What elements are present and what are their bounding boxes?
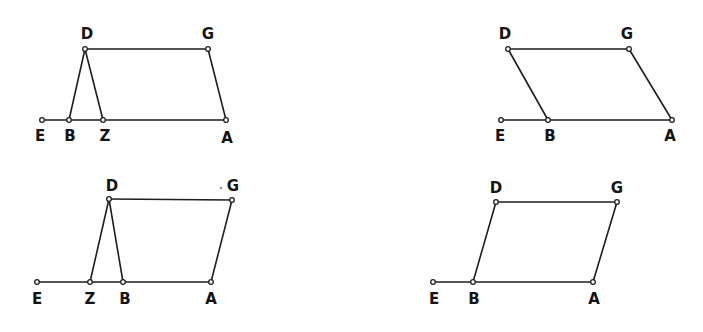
segment-DB xyxy=(508,49,548,120)
point-B xyxy=(67,118,72,123)
point-label-A: A xyxy=(588,290,600,308)
point-E xyxy=(499,118,504,123)
segment-GA xyxy=(211,200,232,282)
point-label-D: D xyxy=(106,177,118,195)
figure-bottom-right: EBADG xyxy=(429,179,623,308)
point-label-G: G xyxy=(611,179,623,197)
point-label-B: B xyxy=(64,127,75,145)
point-A xyxy=(670,118,675,123)
point-D xyxy=(506,47,511,52)
point-G xyxy=(615,200,620,205)
segment-DZ xyxy=(85,49,103,120)
segment-GA xyxy=(208,49,226,120)
point-label-D: D xyxy=(499,25,511,43)
point-D xyxy=(107,197,112,202)
point-E xyxy=(40,118,45,123)
point-label-E: E xyxy=(429,290,439,308)
geometry-figure-panel: EBZADGEBADGEZBADGEBADG xyxy=(0,0,703,332)
point-label-B: B xyxy=(544,127,555,145)
point-label-B: B xyxy=(119,290,130,308)
point-Z xyxy=(101,118,106,123)
segment-DZ xyxy=(90,199,109,282)
point-label-A: A xyxy=(205,290,217,308)
point-label-Z: Z xyxy=(85,290,96,308)
point-A xyxy=(591,280,596,285)
point-label-E: E xyxy=(32,290,42,308)
point-label-E: E xyxy=(495,127,505,145)
point-A xyxy=(224,118,229,123)
segment-DG xyxy=(109,199,232,200)
point-label-A: A xyxy=(664,127,676,145)
point-E xyxy=(35,280,40,285)
point-G xyxy=(230,198,235,203)
point-Z xyxy=(88,280,93,285)
point-D xyxy=(83,47,88,52)
segment-GA xyxy=(629,49,672,120)
scan-speck xyxy=(220,187,222,189)
point-label-B: B xyxy=(468,290,479,308)
segment-DB xyxy=(69,49,85,120)
point-label-Z: Z xyxy=(100,127,111,145)
segment-DB xyxy=(109,199,123,282)
point-G xyxy=(206,47,211,52)
point-A xyxy=(209,280,214,285)
point-B xyxy=(546,118,551,123)
point-label-D: D xyxy=(490,179,502,197)
point-label-A: A xyxy=(221,129,233,147)
point-label-G: G xyxy=(202,25,214,43)
point-G xyxy=(627,47,632,52)
point-label-D: D xyxy=(81,25,93,43)
segment-DB xyxy=(473,202,496,282)
segment-GA xyxy=(593,202,617,282)
figure-top-right: EBADG xyxy=(495,25,676,145)
figure-top-left: EBZADG xyxy=(35,25,233,147)
point-D xyxy=(494,200,499,205)
point-label-G: G xyxy=(227,177,239,195)
point-E xyxy=(431,280,436,285)
diagram-canvas: EBZADGEBADGEZBADGEBADG xyxy=(0,0,703,332)
figure-bottom-left: EZBADG xyxy=(32,177,239,308)
point-B xyxy=(471,280,476,285)
point-label-G: G xyxy=(621,25,633,43)
point-B xyxy=(121,280,126,285)
point-label-E: E xyxy=(35,127,45,145)
